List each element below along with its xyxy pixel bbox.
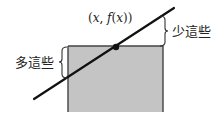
point-label: (x, f(x)) bbox=[88, 12, 132, 24]
point-marker bbox=[113, 44, 119, 50]
rectangle bbox=[68, 46, 163, 112]
comma: , bbox=[99, 11, 107, 25]
right-annotation: 少這些 bbox=[172, 25, 211, 38]
right-brace-icon bbox=[160, 16, 168, 46]
left-brace-icon bbox=[59, 47, 67, 78]
var-x-inner: x bbox=[116, 11, 123, 25]
diagram-canvas: (x, f(x)) 少這些 多這些 bbox=[0, 0, 224, 119]
paren-close: )) bbox=[123, 11, 132, 25]
left-annotation: 多這些 bbox=[15, 56, 54, 69]
